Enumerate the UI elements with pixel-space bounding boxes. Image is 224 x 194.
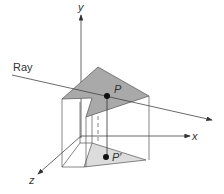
- x-axis-label: x: [191, 130, 198, 142]
- z-axis: [38, 136, 81, 174]
- projected-point-label: P′: [112, 151, 122, 163]
- ray-label: Ray: [13, 61, 33, 73]
- projected-point: [103, 154, 109, 160]
- point-label: P: [114, 83, 122, 95]
- z-axis-label: z: [28, 174, 35, 186]
- y-axis-label: y: [77, 1, 85, 13]
- intersection-point: [104, 93, 110, 99]
- diagram-canvas: y x z Ray P P′: [0, 0, 224, 194]
- triangle: [62, 67, 149, 117]
